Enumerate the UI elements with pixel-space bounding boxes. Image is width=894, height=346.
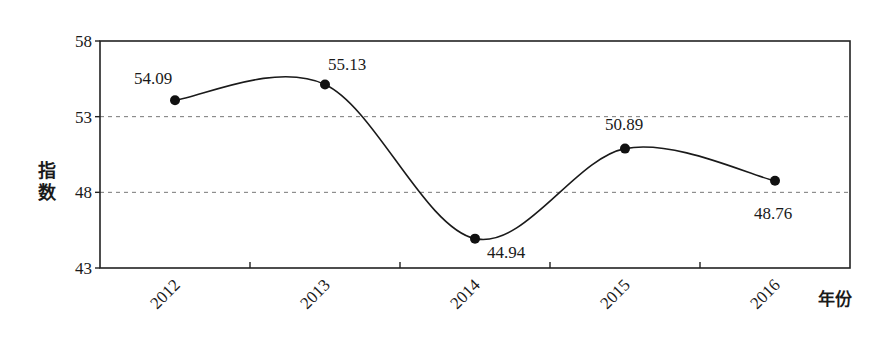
gridlines <box>100 117 850 193</box>
data-label: 50.89 <box>605 115 643 134</box>
y-tick-label: 48 <box>75 183 92 202</box>
y-tick-label: 43 <box>75 259 92 278</box>
data-point <box>470 234 480 244</box>
series-line <box>175 77 775 240</box>
data-point <box>770 176 780 186</box>
y-axis-ticks: 43485358 <box>75 32 100 278</box>
data-point <box>320 79 330 89</box>
data-markers <box>170 79 780 243</box>
x-tick-label: 2013 <box>296 275 333 312</box>
x-tick-label: 2016 <box>746 275 783 312</box>
data-labels: 54.0955.1344.9450.8948.76 <box>134 55 792 261</box>
x-axis-title: 年份 <box>818 285 852 310</box>
x-axis-ticks: 20122013201420152016 <box>146 262 783 313</box>
line-chart: 43485358 20122013201420152016 54.0955.13… <box>0 0 894 346</box>
data-point <box>170 95 180 105</box>
x-tick-label: 2014 <box>446 275 484 313</box>
y-axis-title: 指数 <box>38 160 58 204</box>
data-label: 55.13 <box>328 55 366 74</box>
data-label: 48.76 <box>754 204 792 223</box>
data-label: 44.94 <box>487 243 526 262</box>
data-point <box>620 144 630 154</box>
data-label: 54.09 <box>134 69 172 88</box>
y-tick-label: 53 <box>75 108 92 127</box>
y-tick-label: 58 <box>75 32 92 51</box>
x-tick-label: 2012 <box>146 275 183 312</box>
x-tick-label: 2015 <box>596 275 633 312</box>
